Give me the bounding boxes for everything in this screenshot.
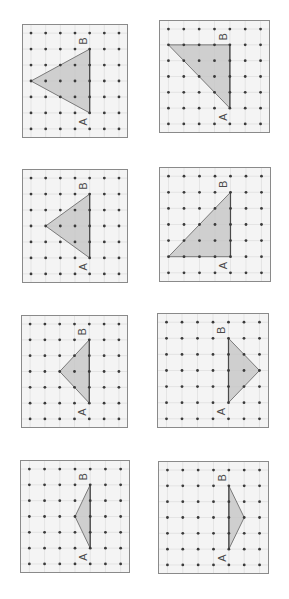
dot-grid-panel-1: BA <box>22 24 128 138</box>
dot-grid: BA <box>21 315 128 428</box>
label-a: A <box>215 407 227 415</box>
dot-grid: BA <box>157 313 269 428</box>
label-b: B <box>215 327 227 334</box>
label-b: B <box>77 473 89 480</box>
dot-grid: BA <box>22 169 128 283</box>
label-a: A <box>76 408 88 416</box>
dot-grid: BA <box>159 167 271 282</box>
label-a: A <box>77 263 89 271</box>
dot-grid-panel-4: BA <box>159 167 271 282</box>
label-a: A <box>216 554 228 562</box>
label-b: B <box>216 474 228 481</box>
dot-grid: BA <box>20 460 130 573</box>
dot-grid: BA <box>158 461 269 574</box>
label-b: B <box>217 181 229 188</box>
dot-grid-panel-2: BA <box>159 20 270 133</box>
dot-grid: BA <box>22 24 128 138</box>
label-a: A <box>77 553 89 561</box>
dot-grid-panel-7: BA <box>20 460 130 573</box>
dot-grid-panel-5: BA <box>21 315 128 428</box>
dot-grid: BA <box>159 20 270 133</box>
dot-grid-panel-8: BA <box>158 461 269 574</box>
label-b: B <box>77 37 89 44</box>
dot-grid-panel-3: BA <box>22 169 128 283</box>
label-b: B <box>76 328 88 335</box>
dot-grid-panel-6: BA <box>157 313 269 428</box>
label-a: A <box>217 113 229 121</box>
label-a: A <box>217 261 229 269</box>
label-b: B <box>77 182 89 189</box>
label-a: A <box>77 118 89 126</box>
label-b: B <box>217 33 229 40</box>
